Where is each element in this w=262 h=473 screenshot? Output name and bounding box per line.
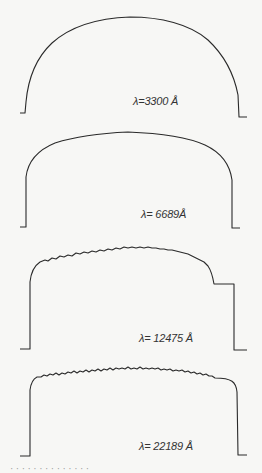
profile-22189 — [20, 367, 247, 456]
caption-fragment: · · · · · · · · · · · · · · — [10, 464, 255, 470]
profile-6689 — [20, 132, 240, 228]
label-12475: λ= 12475 Å — [139, 332, 193, 344]
figure: λ=3300 Å λ= 6689Å λ= 12475 Å λ= 22189 Å … — [0, 0, 262, 473]
label-6689: λ= 6689Å — [141, 208, 186, 220]
label-22189: λ= 22189 Å — [139, 440, 193, 452]
profiles-plot — [0, 0, 262, 473]
profile-12475 — [20, 247, 247, 350]
label-3300: λ=3300 Å — [133, 95, 178, 107]
